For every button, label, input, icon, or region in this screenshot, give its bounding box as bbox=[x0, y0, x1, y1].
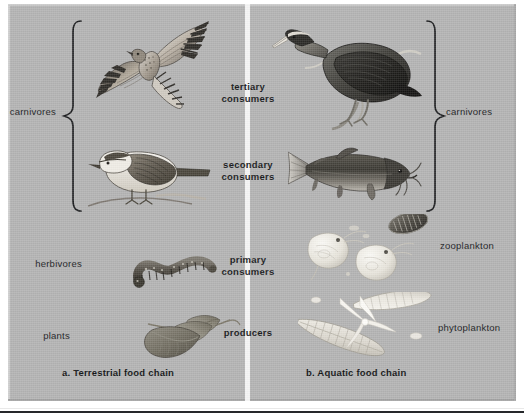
trophic-secondary-line1: secondary bbox=[223, 159, 273, 170]
panel-divider bbox=[245, 4, 250, 401]
caption-terrestrial: a. Terrestrial food chain bbox=[62, 367, 174, 378]
carnivores-label-right: carnivores bbox=[446, 106, 492, 118]
caption-aquatic: b. Aquatic food chain bbox=[306, 367, 406, 378]
herbivores-label: herbivores bbox=[0, 258, 82, 270]
trophic-label-producers: producers bbox=[188, 327, 308, 339]
trophic-secondary-line2: consumers bbox=[222, 171, 275, 182]
page-rule-highlight bbox=[0, 408, 524, 409]
trophic-primary-line2: consumers bbox=[222, 266, 275, 277]
heron-illustration bbox=[272, 16, 422, 132]
plate-shadow-right bbox=[514, 4, 516, 401]
plate-shadow-bottom bbox=[8, 399, 516, 401]
food-chain-figure: carnivores herbivores plants bbox=[0, 0, 524, 416]
carnivores-brace-right bbox=[424, 18, 448, 218]
carnivores-label-left: carnivores bbox=[0, 106, 56, 118]
phytoplankton-illustration bbox=[298, 292, 434, 358]
catfish-illustration bbox=[288, 140, 422, 206]
trophic-tertiary-line2: consumers bbox=[222, 93, 275, 104]
zooplankton-label: zooplankton bbox=[440, 240, 494, 252]
page-rule bbox=[0, 411, 524, 413]
trophic-primary-line1: primary bbox=[230, 254, 267, 265]
plants-label: plants bbox=[0, 330, 70, 342]
trophic-label-primary: primary consumers bbox=[188, 254, 308, 278]
trophic-tertiary-line1: tertiary bbox=[231, 81, 265, 92]
carnivores-brace-left bbox=[60, 18, 84, 218]
plate-highlight-top bbox=[8, 4, 516, 6]
zooplankton-illustration bbox=[302, 214, 432, 286]
phytoplankton-label: phytoplankton bbox=[438, 322, 500, 334]
